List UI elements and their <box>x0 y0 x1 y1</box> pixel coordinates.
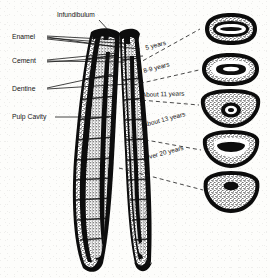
label-age-11-years: About 11 years <box>142 90 185 99</box>
tooth-left-body <box>73 28 120 272</box>
section-20-infundibulum <box>224 182 239 190</box>
label-dentine: Dentine <box>12 85 36 92</box>
section-20-years <box>204 171 260 213</box>
label-pulp-cavity: Pulp Cavity <box>12 113 47 121</box>
section-8-9-years <box>202 53 259 86</box>
label-age-8-9-years: 8-9 years <box>142 60 170 75</box>
label-age-over-20-years: Over 20 years <box>143 144 184 162</box>
section-13-years <box>203 130 259 168</box>
label-age-5-years: 5 years <box>144 39 166 52</box>
tooth-longitudinal-section <box>73 28 152 272</box>
label-infundibulum: Infundibulum <box>57 11 95 18</box>
section-11-years <box>201 89 260 128</box>
label-age-13-years: About 13 years <box>142 110 186 129</box>
label-enamel: Enamel <box>12 33 36 40</box>
section-5-years <box>205 13 257 45</box>
label-cement: Cement <box>12 57 36 64</box>
section-8-9-infundibulum <box>223 67 239 72</box>
section-5-infundibulum <box>220 27 242 31</box>
tooth-ageing-figure: Infundibulum Enamel Cement Dentine Pulp … <box>0 0 270 278</box>
section-11-infundibulum <box>228 108 234 112</box>
